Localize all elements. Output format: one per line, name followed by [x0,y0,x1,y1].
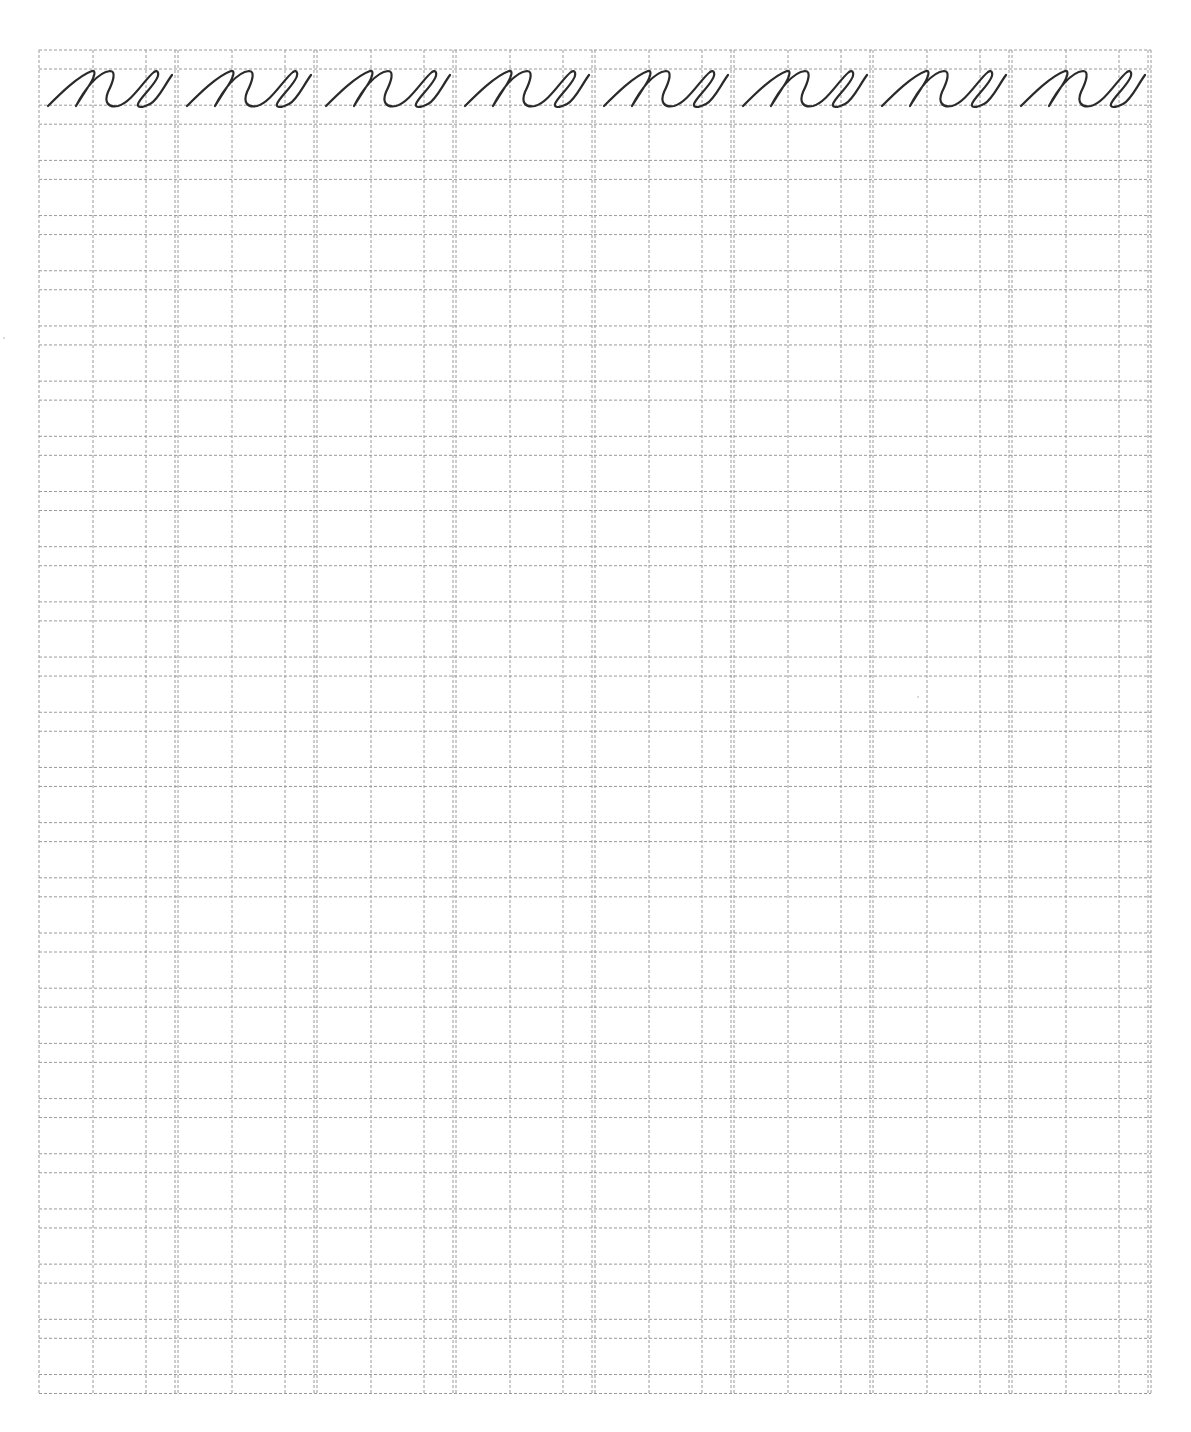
cursive-sample-ne [465,71,589,107]
stray-mark [3,337,5,339]
vertical-guide-lines [39,50,1151,1394]
practice-grid [0,0,1191,1432]
cursive-sample-ne [1021,71,1145,107]
cursive-sample-ne [187,71,311,107]
cursive-sample-ne [48,71,172,107]
cursive-sample-ne [604,71,728,107]
cursive-sample-ne [882,71,1006,107]
cursive-sample-ne [326,71,450,107]
cursive-sample-ne [743,71,867,107]
stray-mark [917,696,919,698]
